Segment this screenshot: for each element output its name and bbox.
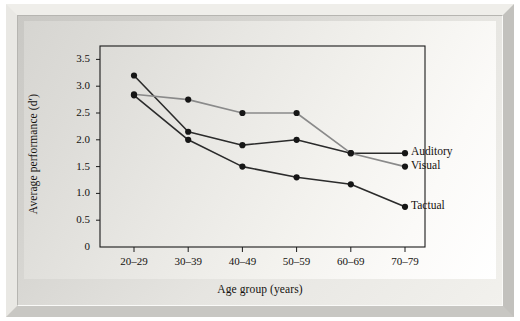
data-point — [348, 181, 354, 187]
x-axis-tick-label: 70–79 — [375, 255, 435, 267]
y-axis-tick-label: 1.5 — [56, 160, 90, 172]
data-point — [348, 150, 354, 156]
data-point — [239, 164, 245, 170]
data-point — [185, 137, 191, 143]
y-axis-tick-label: 3.5 — [56, 52, 90, 64]
data-point — [239, 142, 245, 148]
data-point — [402, 204, 408, 210]
data-point — [185, 97, 191, 103]
series-label-visual: Visual — [411, 159, 440, 171]
chart-series — [131, 72, 408, 210]
plot-border — [100, 46, 425, 247]
x-axis-tick-label: 30–39 — [158, 255, 218, 267]
y-axis-tick-label: 0.5 — [56, 213, 90, 225]
series-line-tactual — [134, 95, 405, 206]
y-axis-tick-label: 2.0 — [56, 133, 90, 145]
data-point — [131, 92, 137, 98]
series-label-auditory: Auditory — [411, 145, 453, 157]
x-axis-title: Age group (years) — [100, 283, 420, 295]
data-point — [402, 150, 408, 156]
series-line-visual — [134, 94, 405, 166]
data-point — [239, 110, 245, 116]
x-axis-tick-label: 50–59 — [267, 255, 327, 267]
x-axis-tick-label: 40–49 — [212, 255, 272, 267]
y-axis-tick-label: 3.0 — [56, 79, 90, 91]
x-axis-tick-label: 20–29 — [104, 255, 164, 267]
data-point — [294, 137, 300, 143]
chart-axes — [96, 46, 425, 252]
series-line-auditory — [134, 75, 405, 153]
figure-root: Average performance (d′) Age group (year… — [0, 0, 520, 321]
data-point — [294, 110, 300, 116]
y-axis-tick-label: 0 — [56, 240, 90, 252]
y-axis-tick-label: 2.5 — [56, 106, 90, 118]
data-point — [131, 72, 137, 78]
y-axis-tick-label: 1.0 — [56, 186, 90, 198]
series-label-tactual: Tactual — [411, 199, 445, 211]
x-axis-tick-label: 60–69 — [321, 255, 381, 267]
data-point — [402, 164, 408, 170]
data-point — [185, 129, 191, 135]
y-axis-title: Average performance (d′) — [27, 74, 39, 234]
data-point — [294, 174, 300, 180]
